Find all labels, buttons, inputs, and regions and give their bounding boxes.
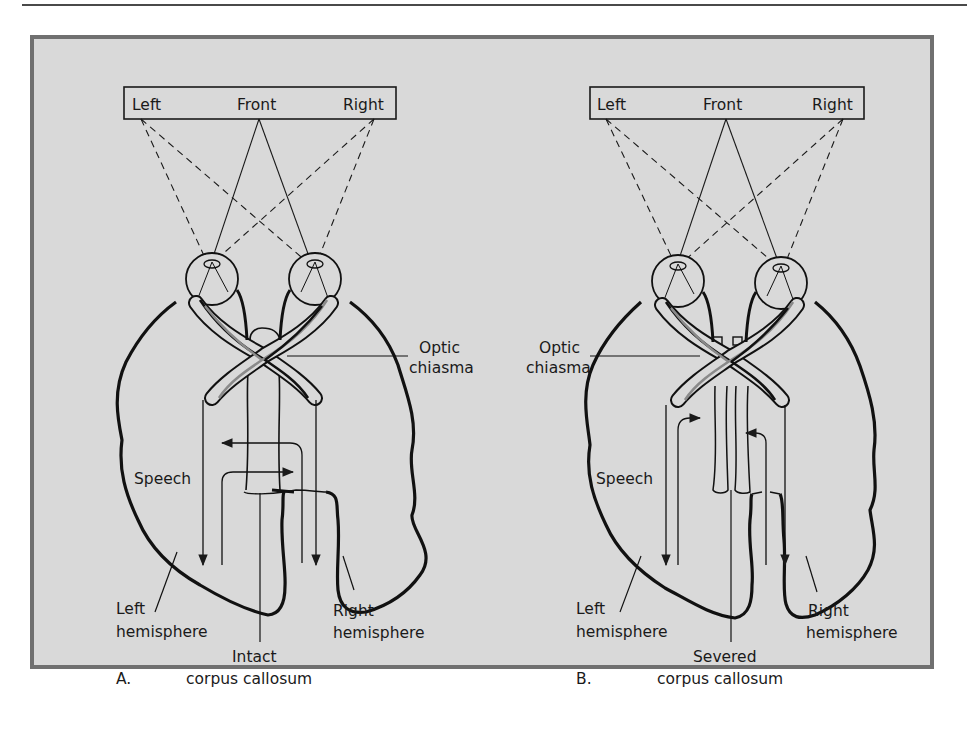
panel-a: Left Front Right	[116, 87, 474, 688]
panel-letter: B.	[576, 670, 592, 688]
optic-chiasma-label-2: chiasma	[409, 359, 474, 377]
left-hemi-pointer	[620, 556, 641, 612]
right-hemisphere-label-1: Right	[333, 602, 374, 620]
panel-letter: A.	[116, 670, 131, 688]
optic-chiasma-label-2: chiasma	[526, 359, 591, 377]
field-left-label: Left	[597, 96, 626, 114]
field-front-label: Front	[703, 96, 742, 114]
right-hemisphere-label-1: Right	[808, 602, 849, 620]
corpus-callosum-label-2: corpus callosum	[657, 670, 783, 688]
sight-lines	[141, 119, 374, 262]
corpus-callosum-label-2: corpus callosum	[186, 670, 312, 688]
corpus-callosum-label-1: Severed	[693, 648, 757, 666]
left-hemisphere-label-2: hemisphere	[576, 623, 668, 641]
right-hemi-pointer	[343, 556, 354, 590]
left-hemisphere-label-1: Left	[576, 600, 605, 618]
panel-b: Left Front Right	[526, 87, 898, 688]
optic-chiasma-label-1: Optic	[539, 339, 580, 357]
optic-chiasma-label-1: Optic	[419, 339, 460, 357]
field-front-label: Front	[237, 96, 276, 114]
right-hemi-pointer	[806, 556, 817, 592]
pathway-arrows	[666, 405, 785, 565]
split-brain-diagram: Left Front Right	[0, 0, 967, 753]
optic-chiasma	[196, 290, 331, 398]
right-hemisphere-label-2: hemisphere	[806, 624, 898, 642]
corpus-callosum-severed	[713, 337, 750, 642]
left-hemisphere-label-2: hemisphere	[116, 623, 208, 641]
speech-label: Speech	[596, 470, 653, 488]
left-hemisphere-label-1: Left	[116, 600, 145, 618]
field-right-label: Right	[343, 96, 384, 114]
field-right-label: Right	[812, 96, 853, 114]
speech-label: Speech	[134, 470, 191, 488]
right-hemisphere-label-2: hemisphere	[333, 624, 425, 642]
field-left-label: Left	[132, 96, 161, 114]
sight-lines	[606, 119, 843, 264]
corpus-callosum-label-1: Intact	[232, 648, 277, 666]
